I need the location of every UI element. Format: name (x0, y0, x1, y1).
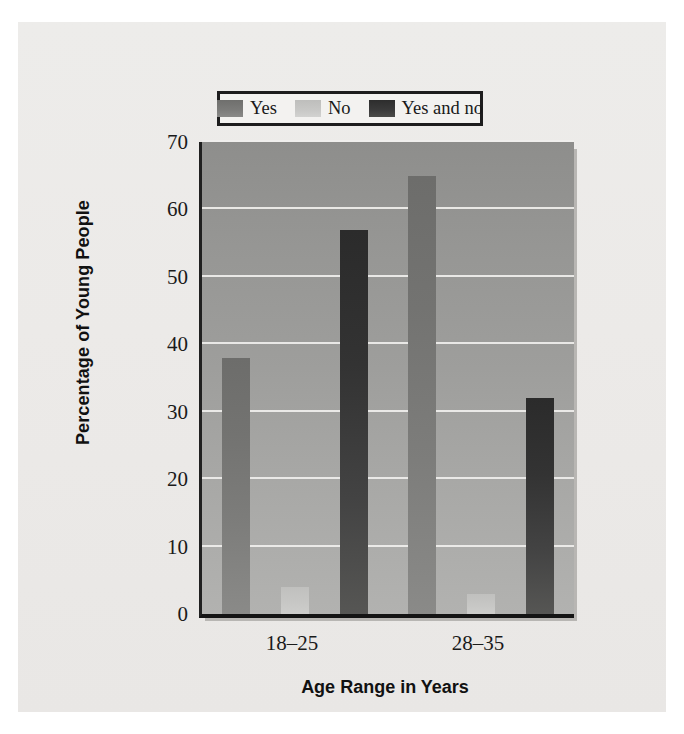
y-axis-tick-label: 70 (136, 132, 188, 153)
legend-swatch-yes (217, 100, 243, 117)
legend-swatch-yes-and-no (369, 100, 395, 117)
legend-entry-yes-and-no[interactable]: Yes and no (369, 99, 483, 118)
bar-group-container (202, 142, 574, 614)
legend-label-no: No (328, 99, 351, 118)
y-axis-tick-label: 20 (136, 469, 188, 490)
legend-entry-yes[interactable]: Yes (217, 99, 277, 118)
x-axis-tick-label: 28–35 (388, 631, 568, 656)
bar-no (467, 594, 495, 614)
chart-legend: Yes No Yes and no (217, 91, 483, 126)
y-axis-tick-label: 50 (136, 267, 188, 288)
bar-yes (222, 358, 250, 614)
x-axis-title: Age Range in Years (199, 677, 571, 698)
legend-swatch-no (295, 100, 321, 117)
y-axis-tick-label: 0 (136, 604, 188, 625)
y-axis-tick-labels: 010203040506070 (126, 22, 188, 712)
y-axis-tick-label: 60 (136, 199, 188, 220)
y-axis-tick-label: 30 (136, 402, 188, 423)
y-axis-tick-label: 10 (136, 537, 188, 558)
plot-area (199, 142, 574, 618)
bar-yes-and-no (340, 230, 368, 614)
legend-label-yes: Yes (250, 99, 277, 118)
y-axis-title: Percentage of Young People (73, 198, 94, 448)
bar-yes-and-no (526, 398, 554, 614)
x-axis-tick-label: 18–25 (202, 631, 382, 656)
bar-yes (408, 176, 436, 614)
legend-entry-no[interactable]: No (295, 99, 351, 118)
bar-no (281, 587, 309, 614)
y-axis-tick-label: 40 (136, 334, 188, 355)
chart-figure: Yes No Yes and no Percentage of Young Pe… (18, 22, 666, 712)
legend-label-yes-and-no: Yes and no (402, 99, 483, 118)
